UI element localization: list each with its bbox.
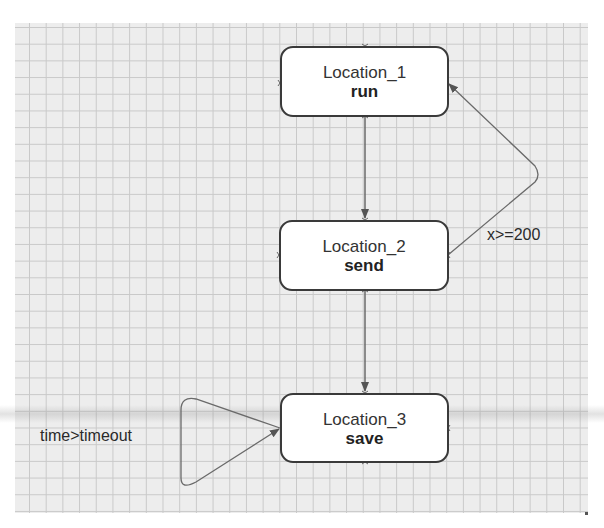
location-name: Location_3 (282, 410, 447, 429)
location-node-3[interactable]: Location_3 save (280, 393, 449, 463)
location-node-1[interactable]: Location_1 run (280, 46, 449, 117)
location-node-2[interactable]: Location_2 send (279, 220, 449, 291)
location-name: Location_1 (282, 63, 447, 82)
corner-dot (585, 512, 588, 515)
location-invariant: save (282, 429, 447, 448)
location-invariant: send (281, 256, 447, 275)
location-invariant: run (282, 82, 447, 101)
location-name: Location_2 (281, 237, 447, 256)
guard-label-x[interactable]: x>=200 (487, 226, 540, 244)
edge-loc3-self-loop[interactable] (181, 398, 280, 485)
guard-label-timeout[interactable]: time>timeout (40, 427, 132, 445)
